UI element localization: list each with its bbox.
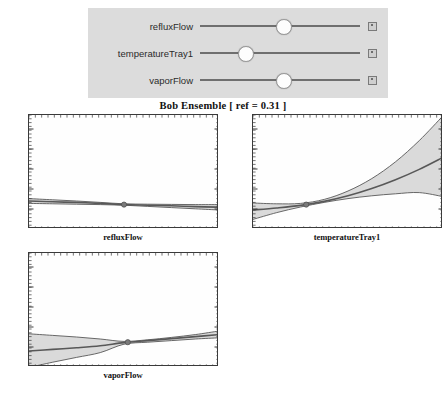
chart-panel-temperaturetray1: -101234 temperatureTray1 (252, 114, 442, 242)
figure: Bob Ensemble [ ref = 0.31 ] -101234 refl… (0, 100, 446, 405)
stepper-square-icon[interactable] (368, 49, 377, 58)
slider-label-vaporflow: vaporFlow (88, 75, 200, 86)
x-axis-label: refluxFlow (28, 232, 218, 242)
stepper-square-icon[interactable] (368, 22, 377, 31)
slider-label-refluxflow: refluxFlow (88, 21, 200, 32)
slider-label-temperaturetray1: temperatureTray1 (88, 48, 200, 59)
figure-title: Bob Ensemble [ ref = 0.31 ] (0, 100, 446, 111)
chart-panel-vaporflow: -101234 vaporFlow (28, 252, 218, 380)
slider-thumb-vaporflow[interactable] (276, 73, 292, 89)
slider-row-temperaturetray1: temperatureTray1 (88, 40, 388, 66)
slider-panel: refluxFlow temperatureTray1 vaporFlow (88, 8, 388, 98)
slider-thumb-temperaturetray1[interactable] (238, 46, 254, 62)
plot-area: -101234 (28, 252, 218, 366)
slider-row-refluxflow: refluxFlow (88, 13, 388, 39)
slider-row-vaporflow: vaporFlow (88, 67, 388, 93)
slider-thumb-refluxflow[interactable] (276, 19, 292, 35)
slider-track[interactable] (200, 52, 360, 54)
chart-panel-refluxflow: -101234 refluxFlow (28, 114, 218, 242)
slider-temperaturetray1[interactable] (200, 43, 360, 63)
stepper-square-icon[interactable] (368, 76, 377, 85)
slider-vaporflow[interactable] (200, 70, 360, 90)
plot-area: -101234 (252, 114, 442, 228)
x-axis-label: vaporFlow (28, 370, 218, 380)
plot-area: -101234 (28, 114, 218, 228)
slider-refluxflow[interactable] (200, 16, 360, 36)
x-axis-label: temperatureTray1 (252, 232, 442, 242)
